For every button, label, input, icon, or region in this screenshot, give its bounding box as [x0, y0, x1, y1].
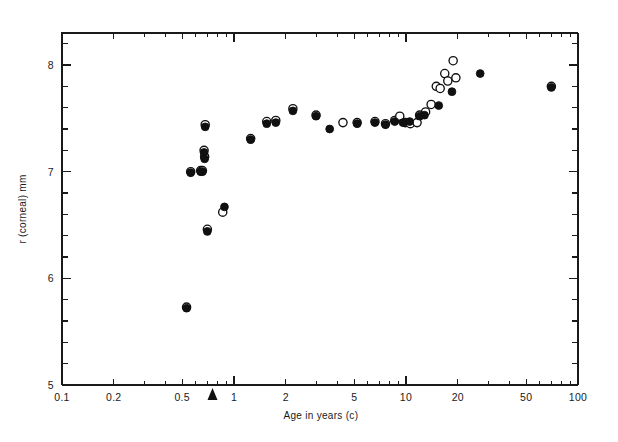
data-point-filled — [406, 118, 414, 126]
y-axis-ticks-right — [569, 44, 578, 385]
data-point-filled — [371, 119, 379, 127]
y-axis-ticks: 5678 — [48, 44, 71, 391]
x-axis-title: Age in years (c) — [283, 410, 358, 421]
data-point-open — [452, 74, 460, 82]
x-axis-ticks-top — [62, 33, 578, 42]
y-tick-label: 6 — [48, 272, 54, 284]
plot-frame — [62, 33, 578, 385]
data-point-filled — [263, 120, 271, 128]
data-point-open — [436, 84, 444, 92]
series-open-circles — [182, 57, 555, 312]
data-point-open — [444, 77, 452, 85]
x-tick-label: 5 — [351, 391, 357, 403]
x-tick-label: 0.2 — [106, 391, 122, 403]
data-point-filled — [353, 120, 361, 128]
age-marker-arrow-icon — [208, 388, 218, 400]
series-filled-circles — [183, 70, 556, 312]
scatter-chart-figure: 0.10.20.51251020501005678Age in years (c… — [0, 0, 618, 442]
data-point-filled — [312, 112, 320, 120]
data-point-filled — [221, 203, 229, 211]
data-point-filled — [289, 107, 297, 115]
x-axis-ticks: 0.10.20.5125102050100 — [54, 376, 587, 403]
y-tick-label: 8 — [48, 59, 54, 71]
x-tick-label: 0.5 — [174, 391, 190, 403]
y-axis-title: r (corneal) mm — [17, 174, 28, 243]
data-point-filled — [183, 304, 191, 312]
data-point-filled — [476, 70, 484, 78]
x-tick-label: 1 — [231, 391, 237, 403]
data-point-filled — [272, 119, 280, 127]
x-tick-label: 10 — [400, 391, 412, 403]
data-point-filled — [187, 169, 195, 177]
x-tick-label: 0.1 — [54, 391, 70, 403]
data-point-open — [449, 57, 457, 65]
x-tick-label: 50 — [520, 391, 532, 403]
x-tick-label: 2 — [283, 391, 289, 403]
data-point-filled — [391, 118, 399, 126]
data-point-open — [427, 100, 435, 108]
data-point-filled — [201, 123, 209, 131]
y-tick-label: 7 — [48, 166, 54, 178]
y-tick-label: 5 — [48, 379, 54, 391]
data-point-open — [339, 119, 347, 127]
x-tick-label: 20 — [452, 391, 464, 403]
x-tick-label: 100 — [569, 391, 587, 403]
data-point-filled — [198, 168, 206, 176]
data-point-filled — [448, 88, 456, 96]
data-point-filled — [435, 102, 443, 110]
data-point-filled — [247, 136, 255, 144]
data-point-filled — [326, 125, 334, 133]
data-point-filled — [201, 155, 209, 163]
data-point-filled — [203, 228, 211, 236]
data-point-filled — [382, 121, 390, 129]
data-point-filled — [421, 111, 429, 119]
data-point-filled — [547, 84, 555, 92]
